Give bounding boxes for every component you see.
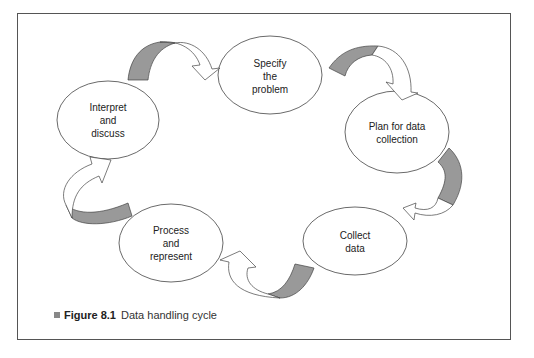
label-line: Specify: [228, 57, 312, 70]
label-line: collection: [350, 133, 444, 146]
cycle-diagram: [0, 0, 534, 358]
figure-title: Data handling cycle: [121, 309, 217, 321]
label-line: Collect: [313, 229, 397, 242]
arrow-process-to-interpret: [64, 157, 132, 224]
node-label-interpret: Interpret and discuss: [66, 101, 150, 140]
label-line: data: [313, 242, 397, 255]
label-line: and: [129, 237, 213, 250]
node-label-collect: Collect data: [313, 229, 397, 255]
label-line: problem: [228, 83, 312, 96]
node-label-plan: Plan for data collection: [350, 120, 444, 146]
label-line: the: [228, 70, 312, 83]
arrow-collect-to-process: [220, 251, 314, 298]
node-label-process: Process and represent: [129, 224, 213, 263]
caption-square-icon: [54, 312, 60, 318]
figure-caption: Figure 8.1Data handling cycle: [54, 309, 217, 321]
arrow-interpret-to-specify: [128, 42, 220, 80]
figure-number: Figure 8.1: [64, 309, 116, 321]
label-line: discuss: [66, 127, 150, 140]
label-line: Interpret: [66, 101, 150, 114]
label-line: and: [66, 114, 150, 127]
arrow-specify-to-plan: [329, 46, 418, 100]
label-line: Process: [129, 224, 213, 237]
label-line: Plan for data: [350, 120, 444, 133]
label-line: represent: [129, 250, 213, 263]
node-label-specify: Specify the problem: [228, 57, 312, 96]
